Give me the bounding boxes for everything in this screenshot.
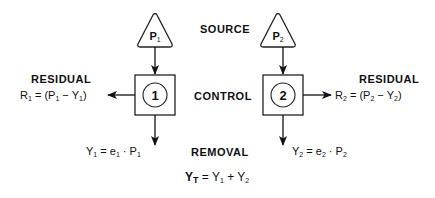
eq-term: = (P bbox=[35, 89, 55, 101]
total-removal-equation: YT = Y1 + Y2 bbox=[185, 171, 249, 185]
eq-sub: 2 bbox=[245, 177, 249, 184]
eq-term: R bbox=[335, 89, 343, 101]
residual-equation-1: R1 = (P1 − Y1) bbox=[20, 90, 87, 102]
control-number-2: 2 bbox=[271, 89, 295, 102]
source-subscript: 2 bbox=[280, 36, 284, 43]
source-label-2: P2 bbox=[266, 31, 290, 43]
eq-sub: 1 bbox=[28, 95, 32, 102]
eq-term: · P bbox=[326, 145, 343, 157]
eq-term: = e bbox=[97, 145, 116, 157]
eq-term: ) bbox=[398, 89, 402, 101]
eq-term: Y bbox=[185, 170, 193, 184]
residual-equation-2: R2 = (P2 − Y2) bbox=[335, 90, 402, 102]
source-label-1: P1 bbox=[143, 31, 167, 43]
residual-heading-2: RESIDUAL bbox=[359, 74, 419, 85]
source-symbol: P bbox=[149, 30, 156, 42]
removal-equation-1: Y1 = e1 · P1 bbox=[86, 146, 141, 158]
eq-term: = (P bbox=[350, 89, 370, 101]
eq-sub: 2 bbox=[343, 151, 347, 158]
eq-term: − Y bbox=[374, 89, 394, 101]
eq-sub: 2 bbox=[343, 95, 347, 102]
eq-term: = Y bbox=[199, 170, 220, 184]
eq-term: ) bbox=[83, 89, 87, 101]
source-subscript: 1 bbox=[157, 36, 161, 43]
removal-equation-2: Y2 = e2 · P2 bbox=[292, 146, 347, 158]
eq-sub: 1 bbox=[137, 151, 141, 158]
eq-term: · P bbox=[120, 145, 137, 157]
source-heading: SOURCE bbox=[200, 24, 250, 35]
control-heading: CONTROL bbox=[194, 91, 252, 102]
eq-term: + Y bbox=[224, 170, 245, 184]
removal-heading: REMOVAL bbox=[191, 147, 249, 158]
eq-term: = e bbox=[303, 145, 322, 157]
residual-heading-1: RESIDUAL bbox=[31, 74, 91, 85]
control-number-1: 1 bbox=[143, 89, 167, 102]
eq-term: R bbox=[20, 89, 28, 101]
eq-term: − Y bbox=[59, 89, 79, 101]
source-symbol: P bbox=[272, 30, 279, 42]
